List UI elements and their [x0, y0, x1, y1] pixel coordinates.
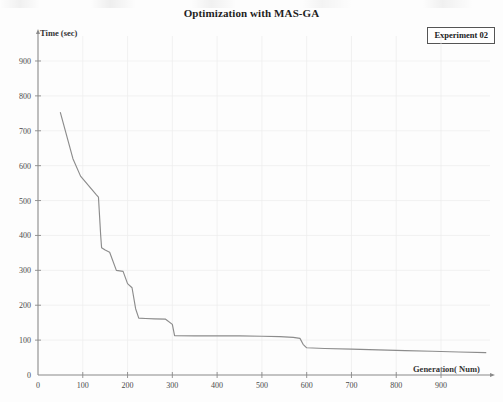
svg-text:900: 900 [435, 381, 447, 390]
svg-text:600: 600 [19, 162, 31, 171]
svg-text:800: 800 [390, 381, 402, 390]
svg-text:700: 700 [19, 127, 31, 136]
svg-text:100: 100 [19, 336, 31, 345]
svg-text:800: 800 [19, 92, 31, 101]
svg-text:700: 700 [345, 381, 357, 390]
axis-layer [36, 29, 495, 377]
svg-text:200: 200 [122, 381, 134, 390]
svg-text:300: 300 [166, 381, 178, 390]
svg-text:500: 500 [19, 197, 31, 206]
svg-text:400: 400 [19, 231, 31, 240]
data-series-layer [60, 113, 485, 353]
svg-text:100: 100 [77, 381, 89, 390]
tick-layer [35, 61, 441, 378]
svg-text:300: 300 [19, 266, 31, 275]
chart-figure: Optimization with MAS-GA Experiment 02 T… [0, 0, 503, 402]
svg-text:900: 900 [19, 57, 31, 66]
plot-area: 0100200300400500600700800900010020030040… [0, 0, 503, 402]
grid-layer [38, 36, 490, 375]
svg-text:600: 600 [301, 381, 313, 390]
svg-text:500: 500 [256, 381, 268, 390]
svg-text:0: 0 [27, 371, 31, 380]
svg-text:0: 0 [36, 381, 40, 390]
svg-text:400: 400 [211, 381, 223, 390]
svg-text:200: 200 [19, 301, 31, 310]
